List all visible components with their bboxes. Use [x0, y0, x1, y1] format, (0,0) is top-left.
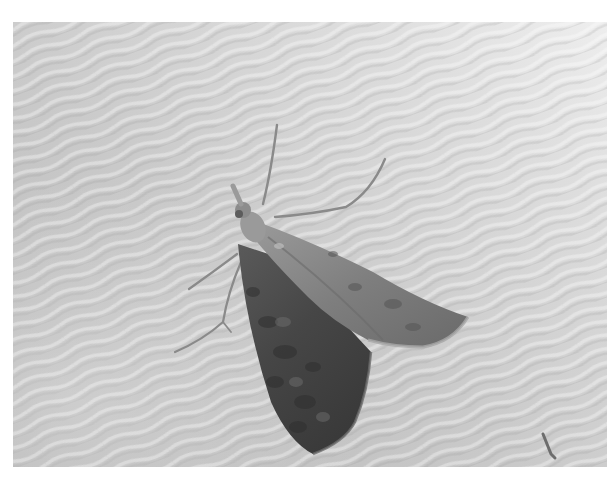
moth-photo-canvas [13, 22, 607, 467]
eye [235, 210, 243, 218]
photo [13, 22, 607, 467]
